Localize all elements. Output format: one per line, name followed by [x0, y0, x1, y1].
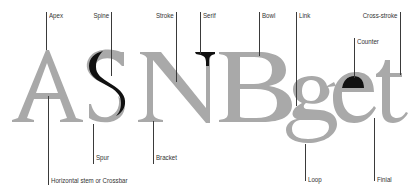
label-bowl: Bowl: [262, 11, 275, 20]
label-loop: Loop: [308, 175, 322, 184]
label-bracket: Bracket: [156, 153, 177, 162]
link-leader-line: [296, 12, 297, 106]
label-cross-stroke: Cross-stroke: [363, 11, 398, 20]
label-serif: Serif: [203, 11, 216, 20]
spur-leader-line: [93, 124, 94, 164]
counter-leader-line: [354, 38, 355, 78]
bracket-leader-line: [153, 121, 154, 164]
spine-leader-line: [111, 12, 112, 76]
letter-t: [376, 60, 408, 123]
finial-leader-line: [374, 118, 375, 181]
cross-stroke-leader-line: [400, 12, 401, 75]
type-anatomy-diagram: Apex Spine Stroke Serif Bowl Link Cross-…: [0, 0, 416, 191]
label-apex: Apex: [49, 11, 63, 20]
label-spine: Spine: [93, 11, 109, 20]
label-link: Link: [299, 11, 310, 20]
letter-g: [286, 76, 337, 143]
label-counter: Counter: [357, 37, 379, 46]
label-spur: Spur: [96, 153, 109, 162]
serif-leader-line: [200, 12, 201, 54]
bowl-leader-line: [259, 12, 260, 56]
label-stroke: Stroke: [156, 11, 174, 20]
letter-b: [219, 52, 292, 122]
loop-leader-line: [305, 144, 306, 181]
serif-highlight: [195, 52, 215, 66]
label-crossbar: Horizontal stem or Crossbar: [51, 176, 128, 185]
crossbar-leader-line: [48, 96, 49, 185]
letterform-specimen: [0, 0, 416, 191]
stroke-leader-line: [176, 12, 177, 82]
apex-leader-line: [46, 12, 47, 50]
label-finial: Finial: [377, 175, 392, 184]
